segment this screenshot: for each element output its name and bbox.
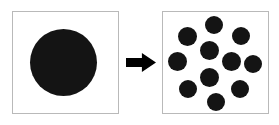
particle-8 [200, 68, 219, 87]
transformation-arrow [126, 53, 156, 72]
arrow-right-icon [126, 53, 156, 72]
before-panel-contents [13, 12, 118, 113]
before-panel [12, 11, 119, 114]
particle-7 [244, 55, 262, 73]
particle-4 [200, 41, 219, 60]
particle-10 [231, 80, 249, 98]
particle-9 [179, 80, 197, 98]
figure-root [0, 0, 279, 125]
particle-11 [207, 93, 225, 111]
particle-1 [205, 16, 223, 34]
particle-3 [232, 27, 250, 45]
after-panel [162, 11, 269, 114]
particle-2 [178, 27, 197, 46]
particle-5 [168, 52, 187, 71]
particle-6 [222, 52, 241, 71]
large-particle [30, 29, 97, 96]
after-panel-contents [163, 12, 268, 113]
